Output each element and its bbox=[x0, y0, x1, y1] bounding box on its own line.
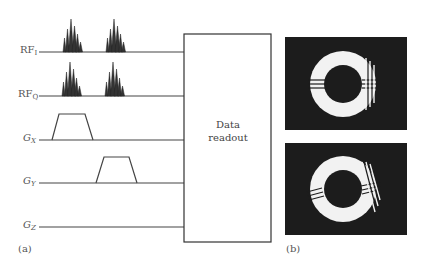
gy-gradient-pulse bbox=[96, 157, 137, 183]
bottom-ring-image bbox=[285, 143, 407, 235]
rf-q-pulse-1 bbox=[62, 62, 82, 96]
rf-i-pulse-1 bbox=[63, 19, 83, 52]
top-ring-image bbox=[285, 37, 407, 130]
panel-b-label: (b) bbox=[286, 243, 300, 254]
rf-i-pulse-2 bbox=[106, 19, 126, 52]
rf-q-pulse-2 bbox=[105, 62, 125, 96]
data-readout-label: Data readout bbox=[184, 118, 272, 144]
panel-a-label: (a) bbox=[18, 243, 32, 254]
gx-gradient-pulse bbox=[52, 114, 93, 140]
